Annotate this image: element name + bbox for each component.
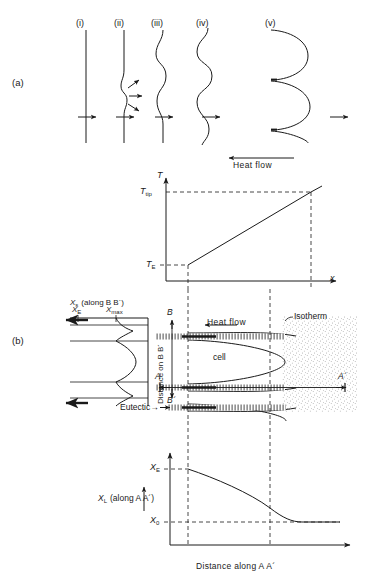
stage-label-i: (i) bbox=[76, 19, 84, 28]
cell-wall-mid-upper bbox=[188, 362, 285, 384]
xs-tick-xmax-label: Xmax bbox=[106, 306, 123, 314]
stage-label-v: (v) bbox=[265, 19, 276, 28]
heat-flow-label-b: Heat flow bbox=[207, 318, 246, 327]
cell-wall-top-lower bbox=[188, 340, 285, 362]
temp-x-axis-label: x bbox=[330, 274, 335, 283]
panel-solid-composition-plot bbox=[66, 315, 148, 406]
panel-cell-diagram bbox=[146, 316, 357, 421]
figure-root: (a) (b) (i) (ii) (iii) (iv) (v) Heat flo… bbox=[0, 0, 370, 577]
xl-y-axis-label: XL(along A A´) bbox=[98, 494, 154, 503]
heat-flow-label-a: Heat flow bbox=[233, 161, 272, 170]
xs-curve-main bbox=[116, 341, 136, 382]
interface-curve-iii bbox=[156, 30, 166, 143]
temp-tick-tip-label: Ttip bbox=[140, 187, 152, 196]
cell-label: cell bbox=[213, 353, 226, 362]
stage-label-iv: (iv) bbox=[196, 19, 209, 28]
figure-vector-layer bbox=[0, 0, 370, 577]
xl-tick-x0-label: X0 bbox=[150, 516, 159, 525]
temp-y-axis-label: T bbox=[157, 171, 163, 180]
eutectic-label: Eutectic→ bbox=[120, 403, 159, 412]
stage-label-iii: (iii) bbox=[151, 19, 163, 28]
interface-curve-v-mid bbox=[271, 81, 310, 130]
panel-a-interface-sequence bbox=[78, 28, 348, 158]
perturbation-arrow-down bbox=[128, 104, 139, 111]
xl-curve bbox=[188, 469, 340, 522]
temp-tick-eutectic-label: TE bbox=[146, 260, 156, 269]
stage-label-ii: (ii) bbox=[114, 19, 124, 28]
marker-a-label: A bbox=[155, 372, 161, 381]
panel-b-label: (b) bbox=[12, 336, 24, 346]
panel-liquid-composition-plot bbox=[144, 421, 350, 545]
xl-tick-xe-label: XE bbox=[150, 463, 160, 472]
interface-curve-ii bbox=[121, 30, 127, 143]
interface-curve-v-top bbox=[271, 30, 308, 80]
liquid-stipple-region bbox=[282, 316, 357, 412]
temp-line-ext bbox=[311, 186, 322, 192]
marker-b-prime-label: B´ bbox=[167, 396, 176, 405]
interface-curve-v-bot bbox=[271, 131, 308, 143]
interface-curve-iv bbox=[197, 28, 212, 145]
panel-a-label: (a) bbox=[12, 78, 24, 88]
perturbation-arrow-up bbox=[128, 80, 139, 88]
xs-tick-xe-label: XE bbox=[72, 306, 81, 314]
xs-curve-upper bbox=[116, 318, 133, 341]
panel-temperature-plot bbox=[160, 178, 336, 289]
isotherm-label: Isotherm bbox=[294, 312, 327, 321]
temp-line bbox=[188, 192, 311, 265]
marker-b-label: B bbox=[167, 308, 173, 317]
xl-x-axis-label: Distance along A A´ bbox=[196, 562, 275, 571]
cross-panel-guides bbox=[188, 289, 270, 421]
marker-a-prime-label: A´ bbox=[338, 372, 347, 381]
